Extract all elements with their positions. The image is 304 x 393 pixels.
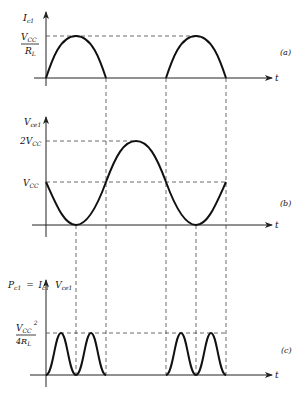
panel-b-tag: (b): [280, 199, 291, 208]
panel-c-tag: (c): [281, 346, 292, 355]
panel-b-vcc-label: VCC: [23, 178, 39, 189]
class-b-waveform-diagram: Ic1 VCC RL t (a) Vce1 2VCC VCC t (b) Pc1…: [0, 0, 304, 393]
panel-a-level-denominator: RL: [24, 46, 36, 57]
panel-a-collector-current: Ic1 VCC RL t (a): [21, 12, 291, 86]
panel-c-y-label: Pc1 = Ic1 Vce1: [7, 280, 72, 292]
panel-b-2vcc-label: 2VCC: [19, 136, 42, 147]
panel-b-voltage-waveform: [46, 141, 226, 225]
panel-a-x-label: t: [275, 73, 279, 83]
panel-a-y-label: Ic1: [22, 12, 34, 24]
panel-c-power-dissipation: Pc1 = Ic1 Vce1 VCC2 4RL t (c): [7, 280, 292, 387]
panel-c-power-waveform: [46, 333, 226, 375]
panel-c-x-label: t: [275, 370, 279, 380]
panel-c-level-denominator: 4RL: [15, 337, 31, 347]
panel-a-current-waveform: [46, 36, 226, 78]
panel-b-y-label: Vce1: [24, 117, 41, 128]
panel-c-level-numerator: VCC2: [16, 319, 38, 334]
vertical-guide-lines: [76, 78, 226, 375]
panel-b-collector-voltage: Vce1 2VCC VCC t (b): [19, 117, 291, 237]
panel-b-x-label: t: [275, 220, 279, 230]
panel-a-level-numerator: VCC: [21, 32, 37, 43]
panel-a-tag: (a): [280, 48, 291, 57]
